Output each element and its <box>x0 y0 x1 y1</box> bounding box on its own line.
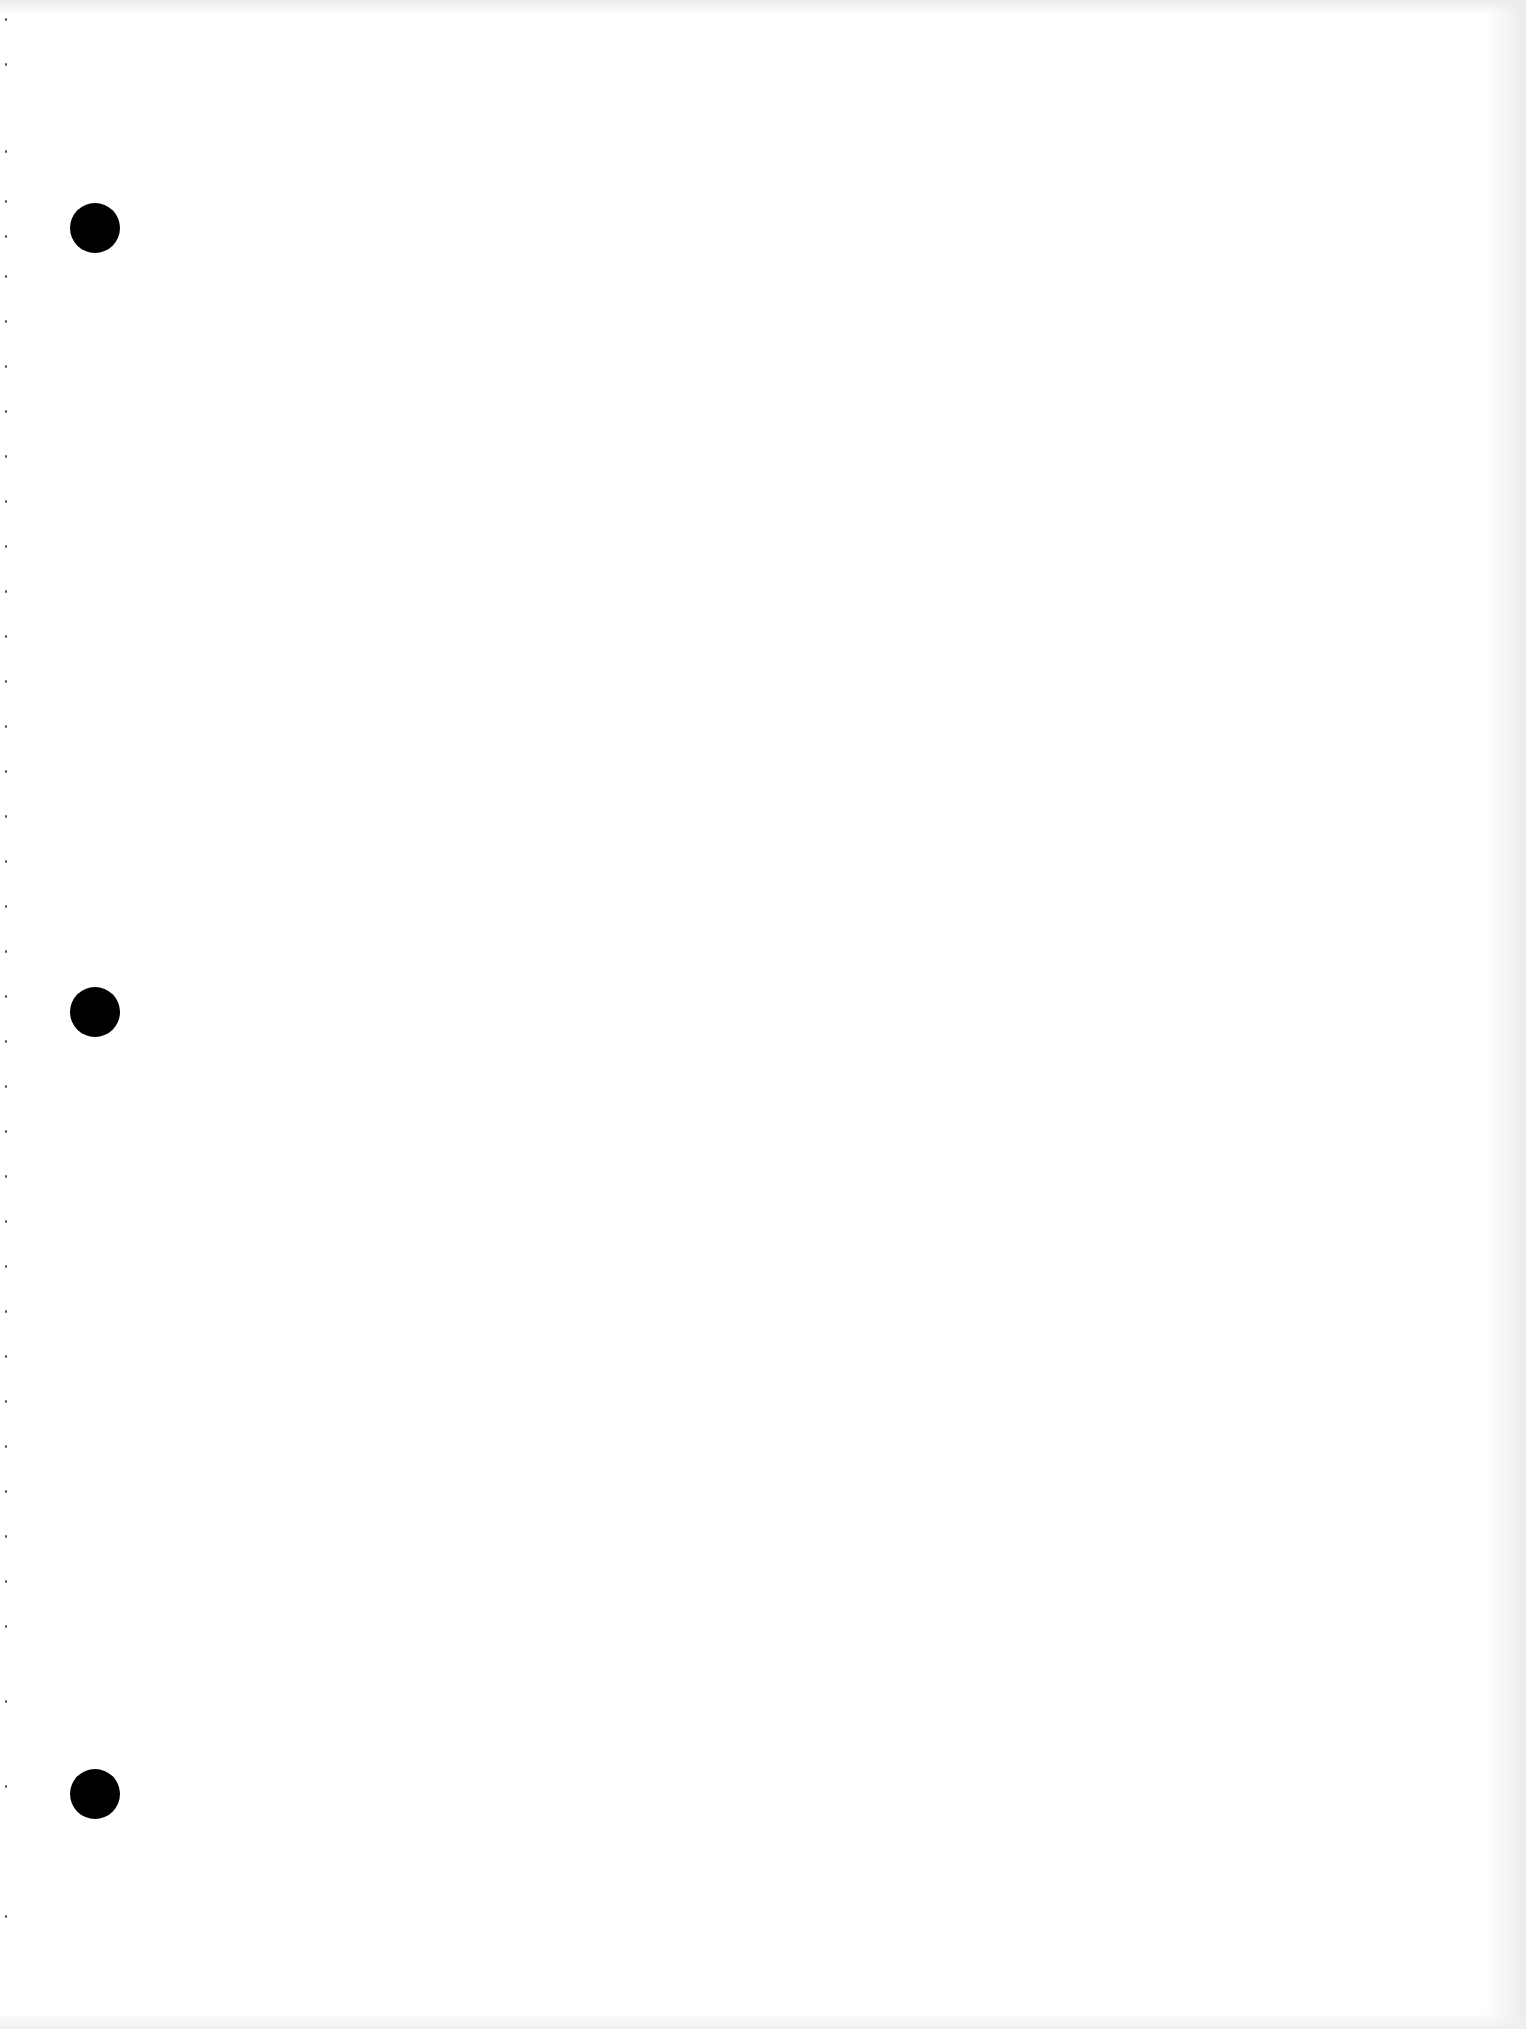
perforation-mark <box>5 815 7 818</box>
perforation-mark <box>5 500 7 503</box>
perforation-mark <box>5 1400 7 1403</box>
scan-shadow-bottom <box>0 2013 1526 2029</box>
perforation-mark <box>5 905 7 908</box>
perforation-mark <box>5 1175 7 1178</box>
perforation-mark <box>5 860 7 863</box>
perforation-mark <box>5 635 7 638</box>
punch-hole-1 <box>70 203 120 253</box>
perforation-mark <box>5 1310 7 1313</box>
perforation-mark <box>5 365 7 368</box>
perforation-mark <box>5 320 7 323</box>
perforation-mark <box>5 1265 7 1268</box>
perforation-mark <box>5 1700 7 1703</box>
perforation-mark <box>5 1220 7 1223</box>
perforation-mark <box>5 275 7 278</box>
perforation-mark <box>5 235 7 238</box>
blank-page <box>0 0 1526 2029</box>
perforation-mark <box>5 410 7 413</box>
perforation-mark <box>5 1130 7 1133</box>
perforation-mark <box>5 18 7 21</box>
perforation-mark <box>5 1355 7 1358</box>
perforation-mark <box>5 950 7 953</box>
perforation-mark <box>5 770 7 773</box>
scan-shadow-top <box>0 0 1526 14</box>
perforation-mark <box>5 1040 7 1043</box>
perforation-mark <box>5 680 7 683</box>
perforation-mark <box>5 1490 7 1493</box>
perforated-edge <box>0 0 14 2029</box>
perforation-mark <box>5 455 7 458</box>
perforation-mark <box>5 1625 7 1628</box>
perforation-mark <box>5 1580 7 1583</box>
perforation-mark <box>5 150 7 153</box>
punch-hole-3 <box>70 1769 120 1819</box>
perforation-mark <box>5 1085 7 1088</box>
perforation-mark <box>5 995 7 998</box>
perforation-mark <box>5 1445 7 1448</box>
perforation-mark <box>5 63 7 66</box>
scan-shadow-right <box>1486 0 1526 2029</box>
perforation-mark <box>5 590 7 593</box>
perforation-mark <box>5 1915 7 1918</box>
perforation-mark <box>5 1785 7 1788</box>
perforation-mark <box>5 725 7 728</box>
perforation-mark <box>5 545 7 548</box>
perforation-mark <box>5 200 7 203</box>
punch-hole-2 <box>70 987 120 1037</box>
perforation-mark <box>5 1535 7 1538</box>
